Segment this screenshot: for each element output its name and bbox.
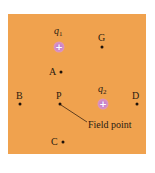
field-point-annotation: Field point xyxy=(88,120,132,130)
field-point-leader-line xyxy=(0,0,155,173)
